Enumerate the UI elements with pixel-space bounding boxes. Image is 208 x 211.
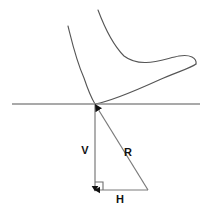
right-angle-marker bbox=[95, 182, 103, 190]
foot-shin-and-top-curve bbox=[98, 10, 196, 64]
foot-heel-curve bbox=[68, 26, 95, 104]
foot-sole-curve bbox=[95, 64, 196, 104]
resultant-force-vector bbox=[98, 109, 148, 190]
resultant-force-label: R bbox=[124, 146, 132, 158]
vertical-force-label: V bbox=[81, 144, 89, 156]
foot-outline-group bbox=[68, 10, 196, 104]
force-vector-diagram: V R H bbox=[0, 0, 208, 211]
horizontal-force-label: H bbox=[116, 193, 124, 205]
diagram-canvas: V R H bbox=[0, 0, 208, 211]
